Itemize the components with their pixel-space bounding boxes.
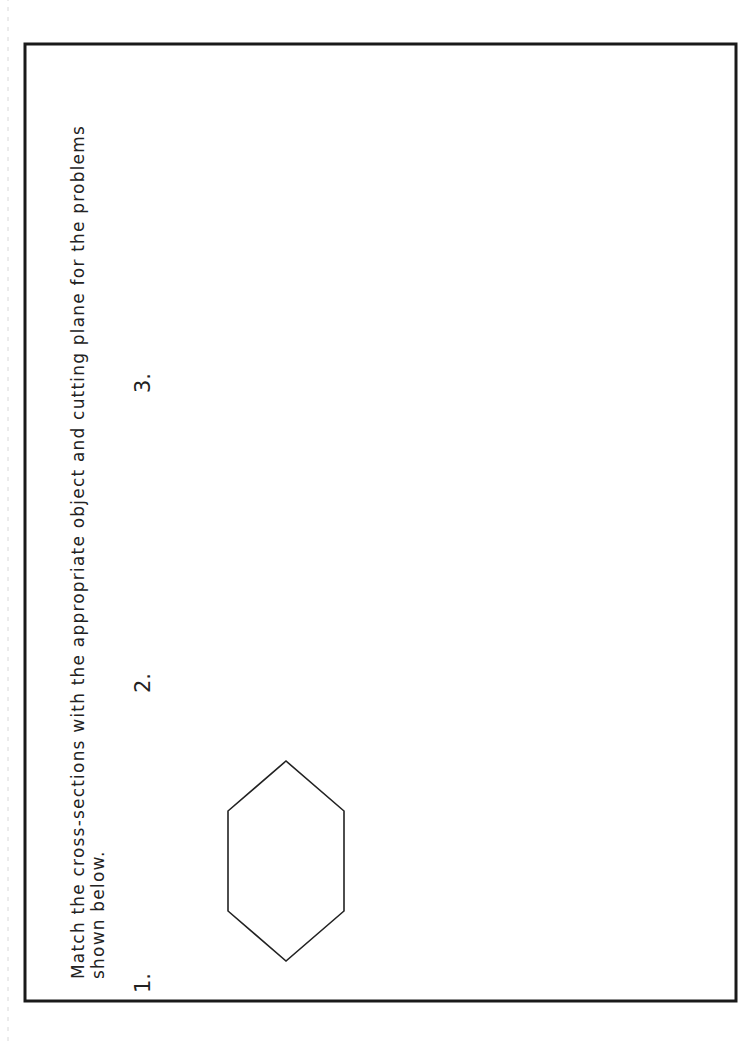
problem-1-object	[228, 761, 344, 961]
worksheet-drawing: Match the cross-sections with the approp…	[0, 0, 752, 1041]
problem-number-2: 2.	[131, 673, 155, 693]
problem-number-1: 1.	[131, 973, 155, 993]
worksheet-page: Match the cross-sections with the approp…	[0, 0, 752, 1041]
problem-number-3: 3.	[131, 373, 155, 393]
page-border	[25, 44, 736, 1001]
instructions-line-1: Match the cross-sections with the approp…	[68, 125, 88, 979]
instructions-line-2: shown below.	[88, 850, 108, 979]
